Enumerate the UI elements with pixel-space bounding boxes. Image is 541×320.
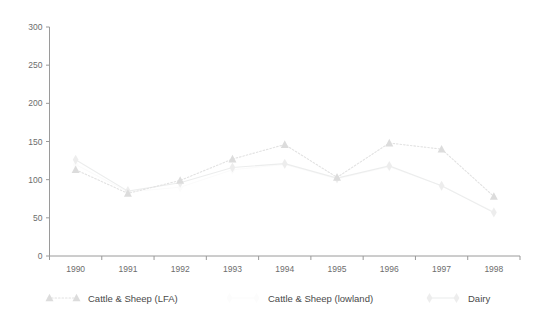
- legend-label-cattle-sheep-lfa: Cattle & Sheep (LFA): [88, 293, 178, 304]
- x-tick-label: 1993: [223, 264, 242, 274]
- y-tick-label: 250: [28, 60, 42, 70]
- legend-label-dairy: Dairy: [468, 293, 490, 304]
- x-tick-label: 1995: [328, 264, 347, 274]
- y-tick-label: 300: [28, 22, 42, 32]
- x-tick-label: 1996: [380, 264, 399, 274]
- y-tick-label: 0: [38, 251, 43, 261]
- chart-container: 050100150200250300 199019911992199319941…: [0, 0, 541, 320]
- x-tick-label: 1991: [118, 264, 137, 274]
- x-tick-label: 1992: [171, 264, 190, 274]
- x-tick-label: 1998: [484, 264, 503, 274]
- y-tick-label: 50: [33, 213, 43, 223]
- x-tick-label: 1990: [66, 264, 85, 274]
- y-tick-label: 150: [28, 137, 42, 147]
- x-tick-label: 1997: [432, 264, 451, 274]
- legend-label-cattle-sheep-lowland: Cattle & Sheep (lowland): [268, 293, 373, 304]
- line-chart: 050100150200250300 199019911992199319941…: [0, 0, 541, 320]
- y-tick-label: 100: [28, 175, 42, 185]
- x-tick-label: 1994: [275, 264, 294, 274]
- y-tick-label: 200: [28, 98, 42, 108]
